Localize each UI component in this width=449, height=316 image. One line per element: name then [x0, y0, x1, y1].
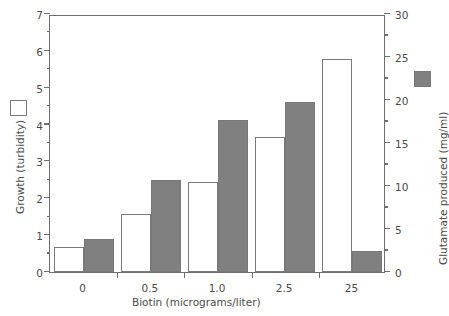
bar-growth — [255, 137, 285, 272]
left-tick-major — [44, 50, 50, 51]
bar-glutamate — [84, 239, 114, 272]
left-tick-major — [44, 271, 50, 272]
right-tick-minor — [384, 249, 388, 250]
right-tick-major — [384, 271, 390, 272]
x-tick-label: 25 — [345, 283, 358, 294]
left-tick-major — [44, 13, 50, 14]
bar-glutamate — [151, 180, 181, 272]
left-tick-label: 0 — [17, 268, 43, 279]
right-tick-major — [384, 99, 390, 100]
plot-area — [49, 15, 385, 273]
bar-growth — [54, 247, 84, 272]
left-tick-major — [44, 234, 50, 235]
left-tick-major — [44, 123, 50, 124]
right-tick-label: 10 — [395, 182, 421, 193]
left-tick-label: 1 — [17, 231, 43, 242]
x-tick-label: 0.5 — [141, 283, 158, 294]
right-tick-label: 30 — [395, 10, 421, 21]
x-tick-label: 2.5 — [276, 283, 293, 294]
right-tick-label: 20 — [395, 96, 421, 107]
x-tick-label: 1.0 — [209, 283, 226, 294]
x-tick-separator — [319, 272, 320, 278]
right-axis-title: Glutamate produced (mg/ml) — [437, 112, 449, 265]
left-tick-label: 4 — [17, 120, 43, 131]
right-tick-minor — [384, 77, 388, 78]
left-tick-minor — [47, 105, 51, 106]
legend-swatch-glutamate — [414, 71, 431, 87]
left-tick-label: 5 — [17, 83, 43, 94]
right-tick-minor — [384, 120, 388, 121]
bar-glutamate — [218, 120, 248, 272]
left-tick-minor — [47, 68, 51, 69]
left-tick-major — [44, 160, 50, 161]
right-tick-major — [384, 228, 390, 229]
left-tick-minor — [47, 216, 51, 217]
right-tick-label: 25 — [395, 53, 421, 64]
left-tick-label: 3 — [17, 157, 43, 168]
legend-swatch-growth — [10, 100, 27, 116]
right-tick-major — [384, 56, 390, 57]
bar-growth — [322, 59, 352, 272]
left-tick-minor — [47, 142, 51, 143]
right-tick-major — [384, 13, 390, 14]
left-tick-label: 2 — [17, 194, 43, 205]
right-tick-major — [384, 185, 390, 186]
x-tick-separator — [252, 272, 253, 278]
x-axis-title: Biotin (micrograms/liter) — [132, 296, 261, 308]
right-tick-minor — [384, 163, 388, 164]
left-tick-label: 7 — [17, 10, 43, 21]
x-tick-label: 0 — [79, 283, 86, 294]
x-tick-separator — [117, 272, 118, 278]
x-tick-separator — [184, 272, 185, 278]
left-tick-minor — [47, 252, 51, 253]
right-tick-label: 15 — [395, 139, 421, 150]
right-tick-label: 5 — [395, 225, 421, 236]
left-tick-major — [44, 87, 50, 88]
left-tick-minor — [47, 31, 51, 32]
bar-glutamate — [285, 102, 315, 272]
left-tick-minor — [47, 179, 51, 180]
left-tick-label: 6 — [17, 47, 43, 58]
bar-growth — [188, 182, 218, 272]
bar-growth — [121, 214, 151, 272]
right-tick-minor — [384, 34, 388, 35]
right-tick-minor — [384, 206, 388, 207]
right-tick-label: 0 — [395, 268, 421, 279]
right-tick-major — [384, 142, 390, 143]
left-tick-major — [44, 197, 50, 198]
bar-glutamate — [352, 251, 382, 273]
